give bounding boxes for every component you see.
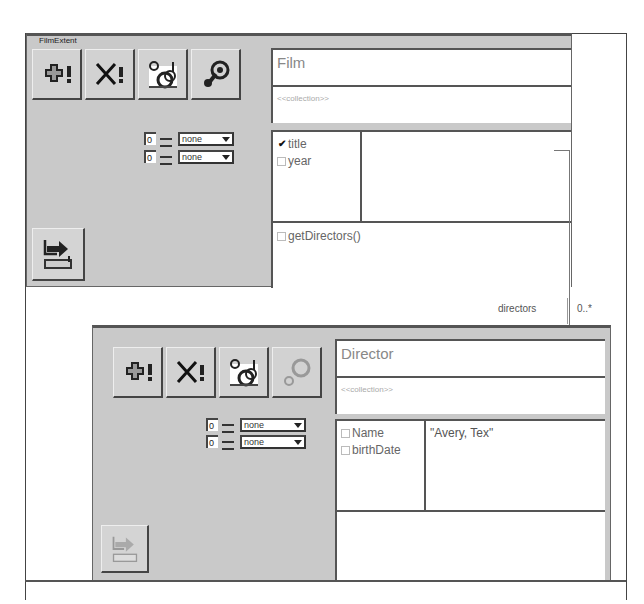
spinner-value[interactable]: 0	[206, 435, 218, 448]
attributes-box: Name birthDate "Avery, Tex"	[335, 419, 605, 511]
stereotype-label: <<collection>>	[277, 94, 329, 103]
chevron-down-icon	[222, 137, 230, 142]
spinner-arrows[interactable]	[159, 132, 173, 146]
attribute-label: year	[288, 154, 311, 168]
class-name: Film	[277, 54, 305, 71]
select-value: none	[182, 152, 202, 162]
checkbox[interactable]	[277, 157, 286, 166]
spinner-row-1: 0 none	[206, 417, 306, 432]
association-connector	[554, 150, 569, 151]
gear-icon	[279, 356, 315, 388]
film-extent-panel: FilmExtent 0	[26, 33, 572, 287]
method-getDirectors[interactable]: getDirectors()	[277, 229, 361, 243]
chevron-down-icon	[294, 440, 302, 445]
class-name-box: Film <<collection>>	[271, 48, 571, 123]
option-select[interactable]: none	[178, 150, 234, 164]
divider	[337, 376, 605, 378]
director-panel: 0 none 0 none Director <<collection>> Na…	[92, 325, 611, 581]
checkbox-checked[interactable]: ✔	[277, 140, 286, 149]
plus-exclaim-icon	[120, 359, 156, 385]
attribute-title[interactable]: ✔ title	[277, 137, 307, 151]
spinner-row-2: 0 none	[144, 149, 234, 164]
divider	[424, 421, 426, 511]
attribute-value: "Avery, Tex"	[430, 426, 493, 440]
export-icon	[110, 533, 140, 565]
gear-icon	[198, 58, 234, 90]
option-select[interactable]: none	[178, 132, 234, 146]
navigate-links-button[interactable]	[219, 347, 269, 398]
checkbox[interactable]	[277, 232, 286, 241]
association-role-label: directors	[498, 303, 536, 314]
delete-instance-button[interactable]	[166, 347, 216, 398]
spinner-value[interactable]: 0	[144, 150, 156, 163]
select-value: none	[244, 437, 264, 447]
attribute-label: Name	[352, 426, 384, 440]
checkbox[interactable]	[341, 429, 350, 438]
divider	[273, 85, 571, 87]
checkbox[interactable]	[341, 446, 350, 455]
export-button-disabled[interactable]	[101, 525, 149, 573]
class-name-box: Director <<collection>>	[335, 339, 605, 414]
export-icon	[41, 236, 75, 272]
attribute-birthdate[interactable]: birthDate	[341, 443, 401, 457]
spinner-row-1: 0 none	[144, 131, 234, 146]
label-divider	[567, 298, 568, 324]
select-value: none	[182, 134, 202, 144]
attribute-year[interactable]: year	[277, 154, 311, 168]
x-exclaim-icon	[173, 359, 209, 385]
spinner-arrows[interactable]	[221, 435, 235, 449]
attribute-name[interactable]: Name	[341, 426, 384, 440]
select-value: none	[244, 420, 264, 430]
circles-link-icon	[145, 58, 181, 90]
option-select[interactable]: none	[240, 435, 306, 449]
class-name: Director	[341, 345, 394, 362]
x-exclaim-icon	[92, 61, 128, 87]
spinner-value[interactable]: 0	[206, 418, 218, 431]
circles-link-icon	[226, 356, 262, 388]
methods-box: getDirectors()	[271, 221, 571, 288]
methods-box	[335, 510, 605, 580]
attributes-box: ✔ title year	[271, 130, 571, 222]
association-connector	[569, 150, 570, 325]
divider	[360, 132, 362, 222]
delete-instance-button[interactable]	[85, 49, 135, 100]
spinner-arrows[interactable]	[221, 418, 235, 432]
add-instance-button[interactable]	[32, 49, 82, 100]
spinner-arrows[interactable]	[159, 150, 173, 164]
attribute-label: birthDate	[352, 443, 401, 457]
chevron-down-icon	[222, 155, 230, 160]
association-multiplicity-label: 0..*	[577, 303, 592, 314]
option-select[interactable]: none	[240, 418, 306, 432]
diagram-frame-bottom	[25, 580, 626, 582]
method-label: getDirectors()	[288, 229, 361, 243]
spinner-value[interactable]: 0	[144, 132, 156, 145]
spinner-row-2: 0 none	[206, 434, 306, 449]
navigate-links-button[interactable]	[138, 49, 188, 100]
plus-exclaim-icon	[39, 61, 75, 87]
stereotype-label: <<collection>>	[341, 385, 393, 394]
export-button[interactable]	[32, 228, 85, 281]
run-method-button[interactable]	[191, 49, 241, 100]
run-method-button-disabled[interactable]	[272, 347, 322, 398]
attribute-label: title	[288, 137, 307, 151]
add-instance-button[interactable]	[113, 347, 163, 398]
panel-title: FilmExtent	[39, 36, 77, 45]
chevron-down-icon	[294, 423, 302, 428]
